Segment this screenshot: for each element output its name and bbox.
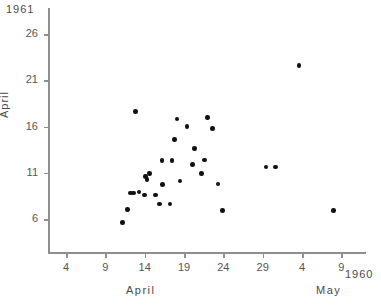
x-axis-line bbox=[48, 252, 366, 254]
y-tick-mark bbox=[44, 80, 49, 82]
data-point bbox=[178, 179, 183, 184]
y-tick-mark bbox=[44, 34, 49, 36]
data-point bbox=[168, 202, 173, 207]
x-tick-mark bbox=[184, 253, 186, 258]
y-tick-mark bbox=[44, 219, 49, 221]
y-tick-mark bbox=[44, 127, 49, 129]
x-tick-mark bbox=[66, 253, 68, 258]
data-point bbox=[147, 171, 152, 176]
y-tick-mark bbox=[44, 173, 49, 175]
data-point bbox=[145, 177, 150, 182]
x-tick-mark bbox=[223, 253, 225, 258]
data-point bbox=[137, 190, 142, 195]
y-tick-label: 16 bbox=[12, 120, 38, 132]
x-tick-label: 9 bbox=[328, 261, 354, 273]
data-point bbox=[120, 220, 125, 225]
x-tick-mark bbox=[302, 253, 304, 258]
data-point bbox=[142, 193, 147, 198]
x-tick-mark bbox=[341, 253, 343, 258]
data-point bbox=[172, 137, 177, 142]
x-tick-mark bbox=[263, 253, 265, 258]
y-tick-label: 11 bbox=[12, 166, 38, 178]
data-point bbox=[297, 63, 302, 68]
data-point bbox=[190, 162, 195, 167]
x-tick-label: 4 bbox=[53, 261, 79, 273]
x-tick-label: 24 bbox=[210, 261, 236, 273]
data-point bbox=[160, 182, 165, 187]
x-tick-label: 9 bbox=[92, 261, 118, 273]
data-point bbox=[264, 165, 269, 170]
data-point bbox=[220, 208, 225, 213]
x-tick-label: 19 bbox=[171, 261, 197, 273]
data-point bbox=[160, 158, 165, 163]
data-point bbox=[273, 165, 278, 170]
data-point bbox=[199, 171, 204, 176]
y-axis-line bbox=[48, 8, 50, 253]
data-point bbox=[131, 191, 136, 196]
data-point bbox=[185, 124, 190, 129]
data-point bbox=[202, 158, 207, 163]
x-axis-title-may: May bbox=[316, 284, 341, 296]
x-axis-title-april: April bbox=[126, 284, 156, 296]
x-tick-label: 4 bbox=[289, 261, 315, 273]
data-point bbox=[170, 158, 175, 163]
x-tick-label: 14 bbox=[132, 261, 158, 273]
data-point bbox=[175, 117, 180, 122]
x-tick-mark bbox=[145, 253, 147, 258]
data-point bbox=[205, 115, 210, 120]
data-point bbox=[331, 208, 336, 213]
y-axis-title: April bbox=[0, 91, 10, 118]
x-tick-mark bbox=[105, 253, 107, 258]
y-tick-label: 26 bbox=[12, 27, 38, 39]
y-tick-label: 6 bbox=[12, 212, 38, 224]
scatter-plot-figure: 1961 1960 April April May 611162126 4914… bbox=[0, 0, 381, 306]
data-point bbox=[125, 207, 130, 212]
data-point bbox=[157, 202, 162, 207]
data-point bbox=[216, 182, 221, 187]
data-point bbox=[210, 126, 215, 131]
data-point bbox=[192, 146, 197, 151]
x-tick-label: 29 bbox=[250, 261, 276, 273]
data-point bbox=[153, 193, 158, 198]
data-point bbox=[133, 109, 138, 114]
year-label-top-left: 1961 bbox=[6, 3, 34, 15]
y-tick-label: 21 bbox=[12, 73, 38, 85]
